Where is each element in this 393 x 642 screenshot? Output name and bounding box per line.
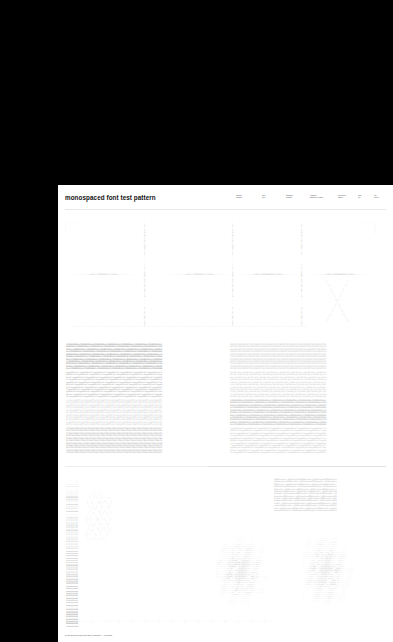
density-band-left-2: mwqpdbkhao*mwqpdbkhao*mwqpdbkhao*mwqpdbk… [66,371,162,398]
header-column-grid: grid on [358,194,361,199]
solid-text-block: #MN8$mqdka*@WQ&%wpbho#MN8$mqdka*@WQ&%wpb… [274,478,337,511]
header-column-size: size 8 pt [262,194,265,199]
crosshair-horizontal-axis-2: .........:::::iiiilllIIIIIIIlllliiii::::… [168,273,229,275]
corner-bracket-figure-right: -------------- | | | | [358,221,376,233]
dotted-baseline-row: .:.:.:.:.:.:.:.:.:.:.:.:.:.:.:.:.:.:.:.:… [70,325,308,327]
crosshair-vertical-axis-2: . : i l I H M # @ # M H I l i : . . : i … [232,219,233,327]
header-column-tracking: tracking normal [286,194,293,199]
hexagonal-lattice-figure: _____ / \ / /\ \_____ / / \ / \ /__/____… [84,491,112,540]
density-band-right-1: ABCDEFGHIJABCDEFGHIJABCDEFGHIJABCDEFGHIJ… [230,343,326,370]
header-column-glyphset: glyph set latin-1 [338,194,346,199]
crosshair-vertical-axis-3: . : i l I H M # @ # M H I l i : . . : i … [301,219,302,327]
page-title: monospaced font test pattern [65,194,156,201]
footnote-text: all specimens rendered at native resolut… [65,634,112,636]
header-column-leading: leading baseline 1.2em [310,194,323,199]
header-divider [65,209,386,210]
header-column-ink: ink 100% [374,194,379,199]
vertical-tone-ramp: .......... `````````` '''''''''' """""""… [66,477,78,627]
specimen-sheet: monospaced font test pattern weight regu… [58,185,393,642]
ascii-halftone-block-right: ... .:---:. ..:::. .::.. .:--==--:...::-… [302,537,353,605]
section-divider-secondary [208,466,386,467]
crosshair-horizontal-axis-1: .........:::::iiiilllIIIIIIIlllliiii::::… [72,273,133,275]
ascii-halftone-block-left: .... .::-::. .... .. .::::. ... ... .::-… [216,537,267,605]
header-column-weight: weight regular [236,194,242,199]
crosshair-vertical-axis-1: . : i l I H M # @ # M H I l i : . . : i … [144,219,145,327]
density-band-right-4: mwqpdbkhao*mwqpdbkhao*mwqpdbkhao*mwqpdbk… [230,427,326,454]
crosshair-horizontal-axis-4: ........:::::iiiillIIIHHHHIIIlliiii::::.… [310,273,369,275]
sheet-header: monospaced font test pattern weight regu… [58,185,393,211]
density-band-left-1: #@MWBNQ8&$%#@MWBNQ8&$%#@MWBNQ8&$%#@MWBNQ… [66,343,162,370]
density-band-left-3: !|/\()[]{}?!|/\()[]{}?!|/\()[]{}?!|/\()[… [66,399,162,426]
density-band-right-2: abcdefghijabcdefghijabcdefghijabcdefghij… [230,371,326,398]
baseline-tick-ruler: |....'....|....'....|....'....|....'....… [66,621,277,624]
x-diagonal-figure: X V W V V V X V W V V V X V W V V V X V … [326,281,348,324]
crosshair-horizontal-axis-3: ........:::::iiiillIIIHHHHIIIlliiii::::.… [238,273,297,275]
corner-bracket-figure: -------------- | | | | [65,221,83,233]
density-band-left-4: 0123456789012345678901234567890123456789… [66,427,162,454]
density-band-right-3: #@MWBNQ8&$%#@MWBNQ8&$%#@MWBNQ8&$%#@MWBNQ… [230,399,326,426]
